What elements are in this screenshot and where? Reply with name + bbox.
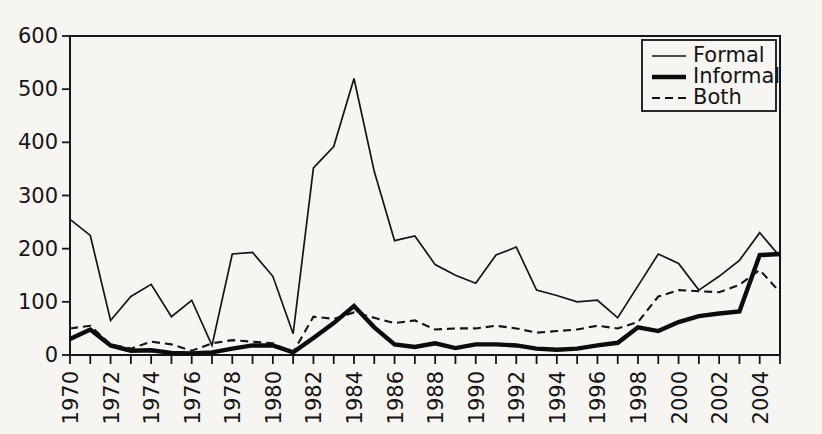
x-tick-label: 1972	[100, 371, 124, 424]
x-tick-label: 1982	[302, 371, 326, 424]
x-tick-label: 1974	[140, 371, 164, 424]
x-tick-label: 2000	[668, 371, 692, 424]
x-tick-label: 1986	[384, 371, 408, 424]
y-tick-label: 600	[18, 24, 58, 48]
y-axis-tick-labels: 0100200300400500600	[18, 24, 58, 367]
legend-label-both: Both	[693, 85, 742, 109]
y-tick-label: 500	[18, 77, 58, 101]
y-axis-tick-marks	[62, 36, 70, 355]
x-tick-label: 1992	[505, 371, 529, 424]
series-line-formal	[70, 79, 780, 346]
y-tick-label: 400	[18, 130, 58, 154]
series-line-both	[70, 270, 780, 352]
y-tick-label: 0	[45, 343, 58, 367]
x-tick-label: 1970	[59, 371, 83, 424]
x-tick-label: 1988	[424, 371, 448, 424]
chart-canvas: 0100200300400500600 19701972197419761978…	[0, 0, 822, 434]
series-line-informal	[70, 254, 780, 353]
y-tick-label: 100	[18, 290, 58, 314]
x-tick-label: 2002	[708, 371, 732, 424]
y-tick-label: 200	[18, 237, 58, 261]
x-axis-tick-marks	[70, 355, 780, 364]
x-tick-label: 1998	[627, 371, 651, 424]
x-axis-tick-labels: 1970197219741976197819801982198419861988…	[59, 371, 773, 424]
x-tick-label: 1990	[465, 371, 489, 424]
x-tick-label: 1984	[343, 371, 367, 424]
chart-legend: FormalInformalBoth	[642, 40, 780, 111]
x-tick-label: 1978	[221, 371, 245, 424]
y-tick-label: 300	[18, 184, 58, 208]
x-tick-label: 1980	[262, 371, 286, 424]
x-tick-label: 2004	[749, 371, 773, 424]
line-chart: 0100200300400500600 19701972197419761978…	[0, 0, 822, 434]
series-group	[70, 79, 780, 354]
x-tick-label: 1996	[586, 371, 610, 424]
x-tick-label: 1994	[546, 371, 570, 424]
x-tick-label: 1976	[181, 371, 205, 424]
